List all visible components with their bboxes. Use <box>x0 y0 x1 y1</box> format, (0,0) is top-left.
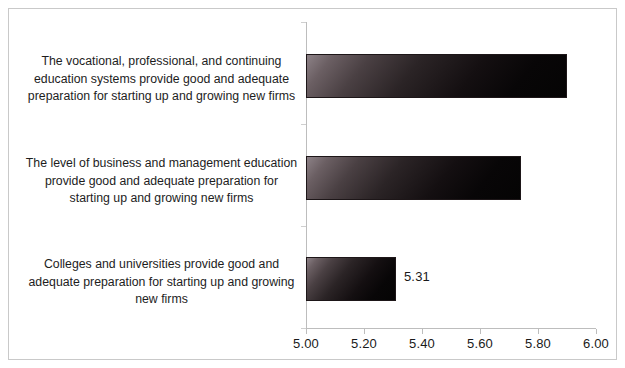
value-axis-tick <box>480 329 481 334</box>
category-axis-tick <box>301 124 306 125</box>
value-axis-tick-label: 5.20 <box>351 336 377 351</box>
value-axis-tick-label: 6.00 <box>583 336 609 351</box>
bar-row: 5.31 <box>306 257 625 301</box>
value-axis-tick-label: 5.40 <box>409 336 435 351</box>
bar-row <box>306 54 625 98</box>
category-axis-label: The level of business and management edu… <box>19 155 304 208</box>
chart-frame: 5.31 The vocational, professional, and c… <box>8 8 617 360</box>
category-axis-tick <box>301 226 306 227</box>
value-axis-line <box>306 328 596 329</box>
category-axis-tick <box>301 22 306 23</box>
value-axis-tick <box>306 329 307 334</box>
value-axis-tick <box>596 329 597 334</box>
plot-area: 5.31 The vocational, professional, and c… <box>9 9 616 359</box>
bar-colleges-universities[interactable] <box>306 257 396 301</box>
value-axis-tick-label: 5.00 <box>293 336 319 351</box>
value-axis-tick <box>422 329 423 334</box>
value-axis-tick-label: 5.80 <box>525 336 551 351</box>
category-axis-label: Colleges and universities provide good a… <box>19 256 304 309</box>
category-axis-label: The vocational, professional, and contin… <box>19 53 304 106</box>
bar-business-management-education[interactable] <box>306 156 521 200</box>
value-axis-tick-label: 5.60 <box>467 336 493 351</box>
value-axis-tick <box>538 329 539 334</box>
bar-value-label: 5.31 <box>404 269 430 284</box>
bar-vocational-professional-continuing[interactable] <box>306 54 567 98</box>
value-axis-tick <box>364 329 365 334</box>
bar-row <box>306 156 625 200</box>
